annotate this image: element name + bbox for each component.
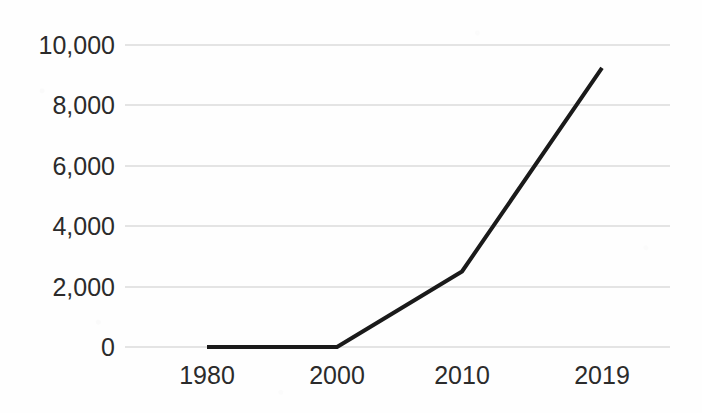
x-axis-tick-label: 1980	[179, 361, 235, 389]
y-axis-tick-label: 10,000	[39, 31, 115, 59]
y-axis-tick-label: 6,000	[52, 152, 115, 180]
line-chart-plot: 02,0004,0006,0008,00010,000 198020002010…	[0, 0, 702, 413]
data-series-line	[207, 68, 602, 347]
x-axis-tick-label-group: 1980200020102019	[179, 361, 630, 389]
y-axis-tick-label: 8,000	[52, 91, 115, 119]
x-axis-tick-label: 2010	[434, 361, 490, 389]
y-axis-tick-label: 2,000	[52, 273, 115, 301]
x-axis-tick-label: 2019	[574, 361, 630, 389]
y-axis-tick-label: 4,000	[52, 212, 115, 240]
x-axis-tick-label: 2000	[309, 361, 365, 389]
chart-container: 02,0004,0006,0008,00010,000 198020002010…	[0, 0, 702, 413]
y-axis-tick-label-group: 02,0004,0006,0008,00010,000	[39, 31, 115, 361]
y-axis-tick-label: 0	[101, 333, 115, 361]
